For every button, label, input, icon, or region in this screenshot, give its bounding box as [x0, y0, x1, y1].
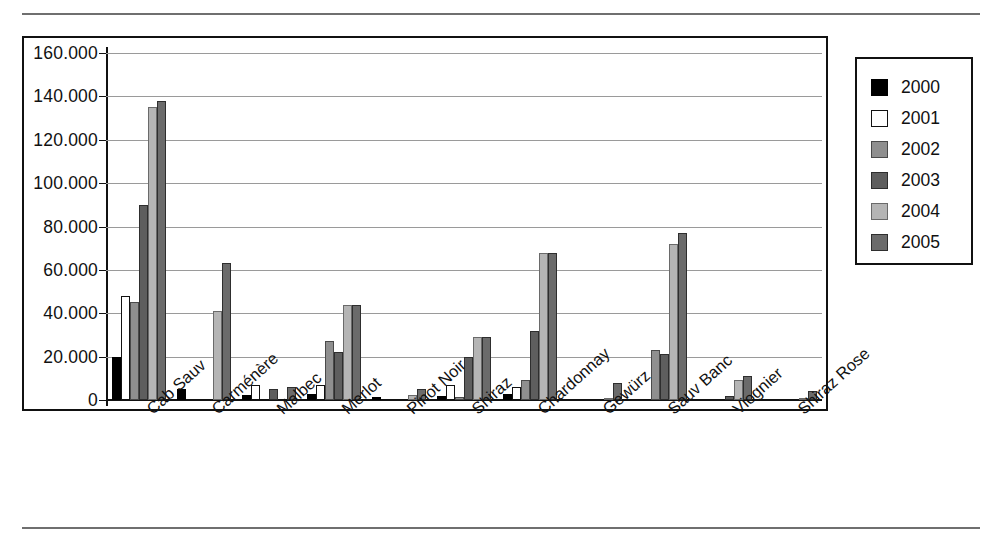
legend-item: 2001 [871, 104, 971, 133]
legend-label: 2000 [901, 79, 940, 97]
bar [334, 352, 343, 400]
bar [455, 397, 464, 400]
bar [139, 205, 148, 400]
y-axis-tick-labels: 160.000140.000120.000100.00080.00060.000… [22, 53, 98, 400]
bar-group [437, 53, 491, 400]
legend-swatch-icon [871, 234, 888, 251]
legend-label: 2005 [901, 234, 940, 252]
y-axis-tick-label: 100.000 [33, 173, 98, 194]
bottom-divider-rule [22, 527, 980, 529]
legend-swatch-icon [871, 203, 888, 220]
bar [157, 101, 166, 400]
y-axis-tick [99, 357, 106, 358]
legend-swatch-icon [871, 110, 888, 127]
bar [130, 302, 139, 400]
legend-item: 2000 [871, 73, 971, 102]
bar [660, 354, 669, 400]
bar [548, 253, 557, 400]
bar [325, 341, 334, 400]
bar-group [307, 53, 361, 400]
bar-chart-plot-area [106, 53, 822, 400]
legend-label: 2003 [901, 172, 940, 190]
bar-group [633, 53, 687, 400]
y-axis-tick-label: 40.000 [43, 303, 98, 324]
bar-group [112, 53, 166, 400]
bar [539, 253, 548, 400]
y-axis-tick-label: 140.000 [33, 86, 98, 107]
y-axis-tick [99, 53, 106, 54]
bar [269, 389, 278, 400]
bar [213, 311, 222, 400]
bar [121, 296, 130, 400]
x-axis-category-labels: Cab SauvCarménèreMalbecMerlotPinot NoirS… [106, 404, 866, 514]
bar [148, 107, 157, 400]
y-axis-tick-label: 60.000 [43, 259, 98, 280]
bar [222, 263, 231, 400]
bar [464, 357, 473, 400]
legend-swatch-icon [871, 141, 888, 158]
bar [651, 350, 660, 400]
bar [530, 331, 539, 400]
y-axis-tick [99, 313, 106, 314]
y-axis-tick [99, 400, 106, 401]
legend-swatch-icon [871, 79, 888, 96]
bar [343, 305, 352, 400]
legend-swatch-icon [871, 172, 888, 189]
bar-group [763, 53, 817, 400]
y-axis-tick-label: 80.000 [43, 216, 98, 237]
y-axis-tick-label: 20.000 [43, 346, 98, 367]
y-axis-tick [99, 140, 106, 141]
y-axis-tick [99, 183, 106, 184]
legend-label: 2001 [901, 110, 940, 128]
bar-group [503, 53, 557, 400]
legend-label: 2002 [901, 141, 940, 159]
legend-label: 2004 [901, 203, 940, 221]
y-axis-tick [99, 96, 106, 97]
y-axis-tick [99, 270, 106, 271]
bar-group [372, 53, 426, 400]
y-axis-tick-label: 160.000 [33, 43, 98, 64]
legend-item: 2002 [871, 135, 971, 164]
bar [678, 233, 687, 400]
bar-group [698, 53, 752, 400]
bar [112, 357, 121, 400]
bar-group [177, 53, 231, 400]
top-divider-rule [22, 13, 980, 15]
y-axis-tick-label: 120.000 [33, 129, 98, 150]
y-axis-tick [99, 227, 106, 228]
legend-item: 2003 [871, 166, 971, 195]
legend-item: 2004 [871, 197, 971, 226]
bar [372, 397, 381, 400]
bar [521, 380, 530, 400]
y-axis-tick-label: 0 [88, 390, 98, 411]
legend-item: 2005 [871, 228, 971, 257]
chart-legend: 200020012002200320042005 [855, 57, 973, 265]
bar [669, 244, 678, 400]
